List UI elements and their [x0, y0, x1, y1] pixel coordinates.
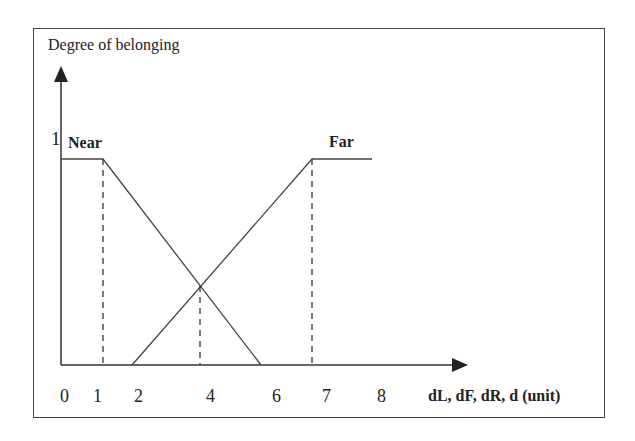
far-curve: [132, 159, 372, 365]
x-tick: 2: [134, 386, 143, 407]
x-tick: 4: [206, 386, 215, 407]
x-axis-title: dL, dF, dR, d (unit): [428, 387, 560, 405]
y-axis-title: Degree of belonging: [48, 36, 180, 54]
x-tick: 8: [377, 386, 386, 407]
x-tick: 0: [60, 386, 69, 407]
x-axis-arrow-icon: [452, 358, 468, 372]
y-axis-arrow-icon: [54, 66, 68, 82]
near-curve: [61, 159, 261, 365]
near-label: Near: [68, 134, 102, 152]
x-tick: 1: [93, 386, 102, 407]
y-tick-1: 1: [51, 128, 61, 150]
membership-diagram: [0, 0, 635, 441]
x-tick: 6: [272, 386, 281, 407]
far-label: Far: [329, 133, 354, 151]
x-tick: 7: [322, 386, 331, 407]
